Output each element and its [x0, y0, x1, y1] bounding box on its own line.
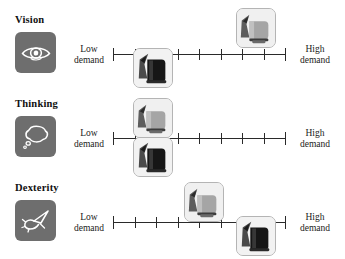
- axis-tick: [285, 216, 286, 229]
- axis-tick: [221, 133, 222, 144]
- silver-kettle-marker-vision[interactable]: [236, 8, 276, 48]
- black-kettle-marker-dexterity[interactable]: [236, 216, 276, 256]
- silver-kettle-photo: [185, 183, 223, 221]
- row-label-thinking: Thinking: [15, 98, 58, 109]
- anchor-low-line1: Low: [62, 212, 116, 223]
- anchor-low-line2: demand: [62, 55, 116, 66]
- silver-kettle-marker-dexterity[interactable]: [184, 182, 224, 222]
- rating-row-vision: Vision Low demand High demand: [0, 0, 345, 86]
- black-kettle-marker-vision[interactable]: [133, 48, 173, 88]
- anchor-low-line2: demand: [62, 223, 116, 234]
- black-kettle-photo: [134, 49, 172, 87]
- anchor-low-dexterity: Low demand: [62, 212, 116, 234]
- anchor-low-line1: Low: [62, 128, 116, 139]
- anchor-low-vision: Low demand: [62, 44, 116, 66]
- axis-tick: [242, 49, 243, 60]
- axis-tick: [285, 48, 286, 61]
- silver-kettle-photo: [134, 99, 172, 137]
- axis-tick: [113, 132, 114, 145]
- axis-tick: [264, 133, 265, 144]
- anchor-low-thinking: Low demand: [62, 128, 116, 150]
- axis-tick: [135, 217, 136, 228]
- eye-icon: [21, 44, 51, 62]
- axis-tick: [264, 49, 265, 60]
- axis-tick: [199, 49, 200, 60]
- anchor-high-vision: High demand: [288, 44, 342, 66]
- thought-bubble-icon-tile: [15, 116, 56, 157]
- anchor-high-line1: High: [288, 128, 342, 139]
- hand-pinch-icon-tile: [15, 200, 56, 241]
- anchor-high-dexterity: High demand: [288, 212, 342, 234]
- silver-kettle-photo: [237, 9, 275, 47]
- row-label-dexterity: Dexterity: [15, 182, 59, 193]
- anchor-high-thinking: High demand: [288, 128, 342, 150]
- eye-icon-tile: [15, 32, 56, 73]
- axis-tick: [113, 48, 114, 61]
- rating-row-thinking: Thinking Low demand High demand: [0, 84, 345, 170]
- anchor-low-line1: Low: [62, 44, 116, 55]
- rating-row-dexterity: Dexterity Low demand High demand: [0, 168, 345, 254]
- axis-tick: [178, 217, 179, 228]
- hand-pinch-icon: [21, 208, 51, 234]
- anchor-high-line2: demand: [288, 55, 342, 66]
- axis-tick: [113, 216, 114, 229]
- black-kettle-photo: [237, 217, 275, 255]
- anchor-high-line2: demand: [288, 223, 342, 234]
- axis-tick: [199, 133, 200, 144]
- axis-tick: [221, 49, 222, 60]
- anchor-low-line2: demand: [62, 139, 116, 150]
- row-label-vision: Vision: [15, 14, 44, 25]
- axis-tick: [242, 133, 243, 144]
- axis-tick: [178, 49, 179, 60]
- anchor-high-line2: demand: [288, 139, 342, 150]
- anchor-high-line1: High: [288, 212, 342, 223]
- axis-tick: [178, 133, 179, 144]
- thought-bubble-icon: [22, 124, 50, 150]
- task-demand-rating-chart: Vision Low demand High demand: [0, 0, 345, 259]
- anchor-high-line1: High: [288, 44, 342, 55]
- axis-tick: [156, 217, 157, 228]
- silver-kettle-marker-thinking[interactable]: [133, 98, 173, 138]
- axis-tick: [285, 132, 286, 145]
